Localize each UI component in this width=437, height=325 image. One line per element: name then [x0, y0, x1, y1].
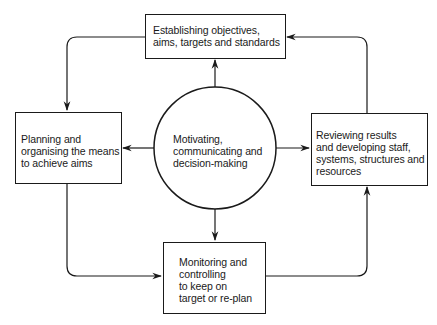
node-monitoring: Monitoring and controlling to keep on ta…: [163, 242, 266, 314]
node-reviewing: Reviewing results and developing staff, …: [311, 113, 428, 186]
node-planning: Planning and organising the means to ach…: [15, 112, 122, 184]
arrow-objectives-to-planning: [67, 37, 145, 110]
node-objectives: Establishing objectives, aims, targets a…: [145, 14, 286, 59]
arrow-monitoring-to-reviewing: [266, 187, 367, 276]
node-planning-label: Planning and organising the means to ach…: [21, 133, 119, 169]
node-objectives-label: Establishing objectives, aims, targets a…: [153, 24, 280, 48]
arrow-planning-to-monitoring: [67, 183, 161, 276]
node-monitoring-label: Monitoring and controlling to keep on ta…: [179, 256, 252, 304]
node-reviewing-label: Reviewing results and developing staff, …: [316, 129, 425, 177]
arrow-reviewing-to-objectives: [287, 37, 367, 113]
center-label: Motivating, communicating and decision-m…: [173, 133, 262, 169]
